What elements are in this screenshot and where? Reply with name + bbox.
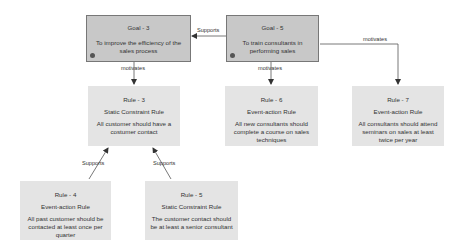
goal-node-3[interactable]: Goal - 3 To improve the efficiency of th… <box>86 15 191 62</box>
node-title: Goal - 5 <box>261 24 283 32</box>
edge-label-supports: Supports <box>153 160 175 166</box>
node-description: All customer should have a costumer cont… <box>88 120 180 136</box>
node-title: Rule - 4 <box>55 191 77 199</box>
rule-node-3[interactable]: Rule - 3 Static Constraint Rule All cust… <box>88 86 180 146</box>
rule-node-5[interactable]: Rule - 5 Static Constraint Rule The cust… <box>145 181 238 240</box>
node-title: Rule - 3 <box>123 96 145 104</box>
edge-label-motivates: motivates <box>121 65 145 71</box>
rule-node-6[interactable]: Rule - 6 Event-action Rule All new consu… <box>225 86 318 146</box>
rule-type: Event-action Rule <box>247 108 296 116</box>
edge-label-motivates: motivates <box>258 65 282 71</box>
edge-label-supports: Supports <box>82 160 104 166</box>
goal-node-5[interactable]: Goal - 5 To train consultants in perform… <box>226 15 319 62</box>
edge-label-supports: Supports <box>197 27 219 33</box>
node-title: Rule - 6 <box>261 96 283 104</box>
edge-label-motivates: motivates <box>363 36 387 42</box>
edge-goal5-motivates-rule7 <box>320 44 398 84</box>
node-title: Rule - 7 <box>387 96 409 104</box>
node-description: To train consultants in performing sales <box>227 39 318 55</box>
node-description: To improve the efficiency of the sales p… <box>87 39 190 55</box>
node-title: Goal - 3 <box>127 24 149 32</box>
rule-type: Static Constraint Rule <box>162 203 222 211</box>
rule-type: Event-action Rule <box>41 203 90 211</box>
rule-node-4[interactable]: Rule - 4 Event-action Rule All past cust… <box>20 181 111 240</box>
node-description: The customer contact should be at least … <box>145 215 238 231</box>
node-description: All past customer should be contacted at… <box>20 215 111 239</box>
rule-type: Event-action Rule <box>374 108 423 116</box>
gear-icon <box>230 53 235 58</box>
node-title: Rule - 5 <box>181 191 203 199</box>
node-description: All new consultants should complete a co… <box>225 120 318 144</box>
node-description: All consultants should attend seminars o… <box>352 120 444 144</box>
rule-node-7[interactable]: Rule - 7 Event-action Rule All consultan… <box>352 86 444 146</box>
gear-icon <box>90 53 95 58</box>
rule-type: Static Constraint Rule <box>104 108 164 116</box>
